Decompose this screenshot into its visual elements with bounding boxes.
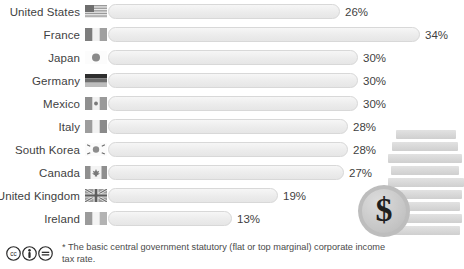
bar-united-kingdom [108,188,278,203]
row-label-country: Mexico [0,92,80,115]
row-label-country: Italy [0,115,80,138]
table-row: Japan 30% [0,46,464,69]
bar-france [108,27,420,42]
cc-icon: cc [6,246,21,261]
flag-ireland-icon [85,212,107,225]
table-row: Mexico 30% [0,92,464,115]
bar-united-states [108,4,340,19]
bar-canada [108,165,344,180]
chart-footer: cc * The basic central government statut… [0,238,464,269]
bar-value-label: 30% [363,73,386,88]
bar-italy [108,119,348,134]
row-label-country: Ireland [0,207,80,230]
row-label-country: Canada [0,161,80,184]
flag-italy-icon [85,120,107,133]
table-row: France 34% [0,23,464,46]
dollar-symbol: $ [376,193,393,227]
table-row: United States 26% [0,0,464,23]
row-label-country: United States [0,0,80,23]
row-label-country: Germany [0,69,80,92]
flag-mexico-icon [85,97,107,110]
bar-south-korea [108,142,348,157]
footnote-text: * The basic central government statutory… [62,242,392,265]
flag-japan-icon [85,51,107,64]
flag-canada-icon [85,166,107,179]
bar-mexico [108,96,358,111]
bar-value-label: 30% [363,50,386,65]
bar-value-label: 13% [237,211,260,226]
creative-commons-badges: cc [6,246,53,261]
bar-germany [108,73,358,88]
bar-value-label: 28% [353,142,376,157]
flag-germany-icon [85,74,107,87]
dollar-coin-icon: $ [358,185,410,237]
cc-nd-icon [38,246,53,261]
row-label-country: Japan [0,46,80,69]
bar-value-label: 28% [353,119,376,134]
bar-value-label: 27% [349,165,372,180]
bar-value-label: 34% [425,27,448,42]
money-bar [391,166,459,175]
money-bar [396,130,456,139]
money-bar [392,142,458,151]
row-label-country: France [0,23,80,46]
flag-france-icon [85,28,107,41]
row-label-country: United Kingdom [0,184,80,207]
flag-south-korea-icon [85,143,107,156]
row-label-country: South Korea [0,138,80,161]
bar-japan [108,50,358,65]
cc-by-icon [22,246,37,261]
bar-value-label: 19% [283,188,306,203]
money-bar [388,154,462,163]
money-bar [388,178,464,187]
bar-value-label: 30% [363,96,386,111]
flag-united-states-icon [85,5,107,18]
flag-united-kingdom-icon [85,189,107,202]
bar-ireland [108,211,232,226]
table-row: Germany 30% [0,69,464,92]
svg-text:cc: cc [10,250,17,257]
tax-rate-bar-chart: United States 26% France 34% Japan 30% G… [0,0,464,238]
bar-value-label: 26% [345,4,368,19]
